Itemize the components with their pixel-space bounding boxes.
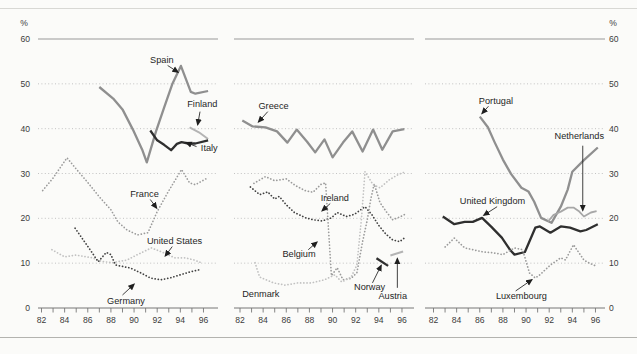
annotation-arrow-france — [150, 200, 156, 209]
series-france — [43, 158, 206, 235]
chart-figure: 82848688909294960102030405060%SpainFinla… — [0, 0, 637, 354]
x-tick-label-84: 84 — [452, 315, 462, 325]
annotation-arrow-greece — [259, 112, 268, 122]
y-label-right-60: 60 — [609, 34, 619, 44]
x-tick-label-82: 82 — [429, 315, 439, 325]
x-tick-label-94: 94 — [568, 315, 578, 325]
x-tick-label-92: 92 — [152, 315, 162, 325]
annotation-label-finland: Finland — [187, 99, 217, 109]
annotation-label-portugal: Portugal — [479, 96, 513, 106]
y-label-left-40: 40 — [20, 124, 30, 134]
x-tick-label-92: 92 — [351, 315, 361, 325]
y-label-left-50: 50 — [20, 79, 30, 89]
x-tick-label-82: 82 — [235, 315, 245, 325]
x-tick-label-96: 96 — [199, 315, 209, 325]
annotation-arrow-germany — [122, 284, 134, 295]
annotation-arrow-luxembourg — [516, 280, 532, 291]
x-tick-label-86: 86 — [83, 315, 93, 325]
x-tick-label-92: 92 — [544, 315, 554, 325]
series-austria — [390, 252, 403, 256]
x-tick-label-88: 88 — [498, 315, 508, 325]
unit-label-right: % — [609, 18, 617, 28]
series-luxembourg — [445, 238, 596, 278]
annotation-label-italy: Italy — [201, 143, 218, 153]
y-label-left-10: 10 — [20, 258, 30, 268]
x-tick-label-96: 96 — [591, 315, 601, 325]
x-tick-label-88: 88 — [106, 315, 116, 325]
x-tick-label-90: 90 — [328, 315, 338, 325]
y-label-right-20: 20 — [609, 213, 619, 223]
annotation-label-ireland: Ireland — [321, 193, 349, 203]
y-label-left-60: 60 — [20, 34, 30, 44]
annotation-arrow-finland — [198, 112, 200, 125]
x-tick-label-84: 84 — [60, 315, 70, 325]
annotation-label-united-kingdom: United Kingdom — [460, 196, 526, 206]
unit-label-left: % — [20, 18, 28, 28]
y-label-right-40: 40 — [609, 124, 619, 134]
panel-right: 82848688909294960102030405060%PortugalUn… — [425, 18, 619, 325]
series-united-states — [52, 248, 201, 263]
panel-left: 82848688909294960102030405060%SpainFinla… — [20, 18, 218, 325]
x-tick-label-90: 90 — [129, 315, 139, 325]
x-tick-label-84: 84 — [258, 315, 268, 325]
y-label-right-50: 50 — [609, 79, 619, 89]
annotation-label-netherlands: Netherlands — [555, 131, 605, 141]
three-panel-line-chart: 82848688909294960102030405060%SpainFinla… — [0, 0, 637, 354]
annotation-label-belgium: Belgium — [282, 249, 316, 259]
x-tick-label-86: 86 — [281, 315, 291, 325]
y-label-right-10: 10 — [609, 258, 619, 268]
y-label-left-0: 0 — [25, 303, 30, 313]
annotation-label-austria: Austria — [378, 291, 407, 301]
series-netherlands — [548, 208, 597, 222]
annotation-label-spain: Spain — [150, 55, 174, 65]
y-label-right-30: 30 — [609, 169, 619, 179]
annotation-label-luxembourg: Luxembourg — [496, 291, 547, 301]
series-greece — [242, 121, 404, 158]
x-tick-label-94: 94 — [176, 315, 186, 325]
annotation-label-germany: Germany — [107, 296, 145, 306]
annotation-label-denmark: Denmark — [242, 289, 280, 299]
annotation-arrow-norway — [372, 265, 381, 282]
y-label-left-20: 20 — [20, 213, 30, 223]
y-label-right-0: 0 — [609, 303, 614, 313]
y-label-left-30: 30 — [20, 169, 30, 179]
x-tick-label-94: 94 — [374, 315, 384, 325]
panel-middle: 8284868890929496GreeceIrelandBelgiumDenm… — [234, 39, 414, 325]
x-tick-label-90: 90 — [521, 315, 531, 325]
x-tick-label-82: 82 — [37, 315, 47, 325]
series-norway — [377, 258, 389, 266]
annotation-arrow-ireland — [322, 204, 330, 211]
annotation-arrow-spain — [168, 65, 178, 72]
annotation-label-united-states: United States — [147, 236, 203, 246]
x-tick-label-86: 86 — [475, 315, 485, 325]
annotation-label-france: France — [130, 189, 159, 199]
annotation-label-greece: Greece — [258, 101, 288, 111]
x-tick-label-88: 88 — [305, 315, 315, 325]
annotation-arrow-united-kingdom — [484, 207, 497, 216]
x-tick-label-96: 96 — [397, 315, 407, 325]
annotation-arrow-portugal — [482, 106, 488, 113]
series-spain — [99, 66, 208, 162]
